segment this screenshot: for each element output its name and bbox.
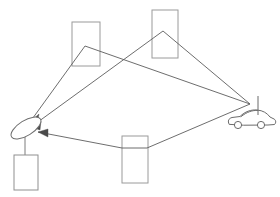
ray-paths-group	[30, 31, 250, 148]
building-bottom-center[interactable]	[122, 136, 148, 183]
receiver-equipment-box[interactable]	[14, 155, 38, 190]
car-wheel-rear-icon	[257, 121, 264, 128]
vehicle-group[interactable]	[228, 96, 275, 129]
ground-station-group[interactable]	[8, 113, 45, 190]
propagation-diagram-svg	[0, 0, 280, 197]
ray-reflected-via-top-left-building[interactable]	[30, 46, 250, 122]
building-top-right[interactable]	[152, 10, 178, 58]
buildings-group	[72, 10, 178, 183]
building-top-left[interactable]	[72, 22, 100, 66]
ray-reflected-via-bottom-building[interactable]	[38, 104, 250, 148]
arrow-head-lower-icon	[38, 129, 48, 137]
car-wheel-front-icon	[234, 121, 241, 128]
ray-reflected-via-top-right-building[interactable]	[31, 31, 250, 127]
diagram-canvas: Multipath radio propagation diagram A pa…	[0, 0, 280, 197]
